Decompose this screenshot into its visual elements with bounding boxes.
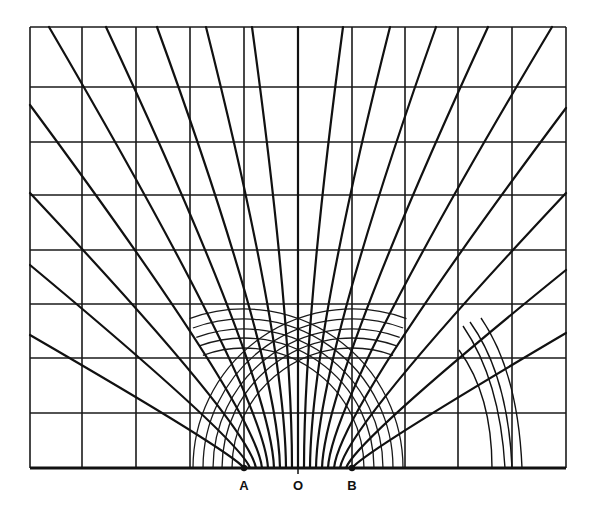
field-line bbox=[334, 108, 566, 468]
small-arc bbox=[459, 350, 492, 468]
label-O: O bbox=[293, 478, 303, 493]
label-B: B bbox=[347, 478, 356, 493]
field-lines bbox=[30, 27, 566, 468]
field-line bbox=[352, 333, 566, 468]
field-line bbox=[30, 265, 250, 468]
point-a bbox=[241, 465, 247, 471]
field-line bbox=[346, 270, 566, 468]
small-arc bbox=[463, 326, 505, 468]
point-b bbox=[349, 465, 355, 471]
field-diagram bbox=[0, 0, 592, 512]
label-A: A bbox=[239, 478, 248, 493]
